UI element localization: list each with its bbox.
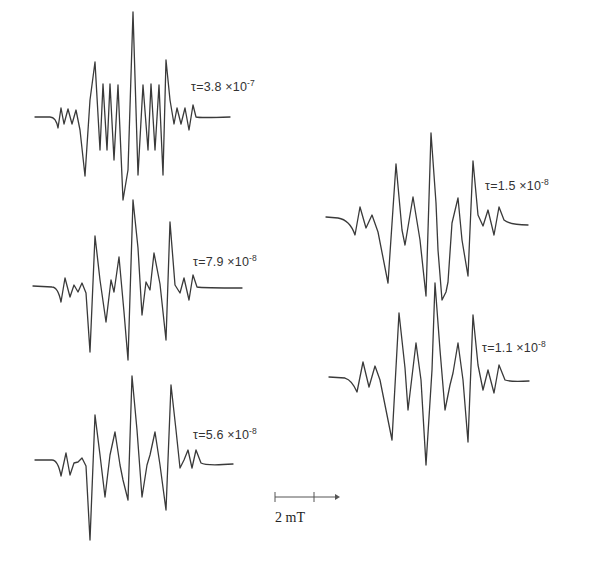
spectrum-tau-1.1e-8 [329,283,529,465]
scale-bar [275,492,340,502]
spectrum-tau-7.9e-8 [33,200,242,360]
spectrum-tau-1.5e-8 [326,133,528,300]
label-tau-7.9e-8: τ=7.9 ×10-8 [193,253,257,269]
label-exponent: -8 [249,253,257,263]
label-tau-3.8e-7: τ=3.8 ×10-7 [191,78,255,94]
label-text: τ=5.6 ×10 [193,428,249,442]
label-exponent: -8 [541,177,549,187]
label-text: τ=3.8 ×10 [191,80,247,94]
spectrum-tau-5.6e-8 [35,376,233,540]
label-text: τ=1.1 ×10 [482,341,538,355]
label-text: τ=7.9 ×10 [193,255,249,269]
label-exponent: -7 [247,78,255,88]
label-tau-1.5e-8: τ=1.5 ×10-8 [485,177,549,193]
label-text: τ=1.5 ×10 [485,179,541,193]
label-exponent: -8 [249,426,257,436]
scale-bar-label: 2 mT [275,510,305,526]
label-exponent: -8 [538,339,546,349]
esr-spectra-figure [0,0,607,576]
spectrum-tau-3.8e-7 [35,12,230,200]
label-tau-1.1e-8: τ=1.1 ×10-8 [482,339,546,355]
label-tau-5.6e-8: τ=5.6 ×10-8 [193,426,257,442]
